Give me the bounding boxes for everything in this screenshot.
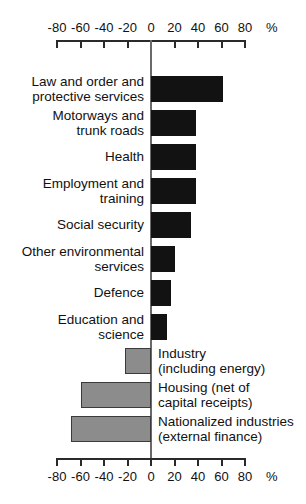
bar-chart: -80-60-40-20020406080 % Law and order an… [0,0,306,504]
bar-category-label: Housing (net of capital receipts) [158,380,306,411]
axis-tick [150,458,152,466]
bar-category-label: Health [0,149,144,165]
axis-tick [197,458,199,466]
bar-category-label: Defence [0,285,144,301]
bar [71,416,151,442]
bar-category-label: Social security [0,217,144,233]
bar-category-label: Employment and training [0,176,144,207]
bar [81,382,152,408]
bottom-axis-unit-label: % [266,470,278,484]
bar-category-label: Nationalized industries (external financ… [158,414,306,445]
bar [151,76,223,102]
axis-tick [127,458,129,466]
axis-tick [80,458,82,466]
bar-category-label: Industry (including energy) [158,346,306,377]
plot-area: Law and order and protective servicesMot… [0,0,306,504]
axis-tick-label: 80 [228,470,262,484]
bar-category-label: Other environmental services [0,244,144,275]
bottom-axis: -80-60-40-20020406080 % [0,458,306,492]
bar [151,314,167,340]
axis-tick [221,458,223,466]
bar [151,144,196,170]
bar [151,246,175,272]
axis-tick [56,458,58,466]
bar [151,212,191,238]
axis-tick [244,458,246,466]
bar [151,110,196,136]
axis-tick [174,458,176,466]
bar [151,280,171,306]
bar [151,178,196,204]
axis-tick [103,458,105,466]
bar-category-label: Law and order and protective services [0,74,144,105]
bar [125,348,151,374]
bar-category-label: Education and science [0,312,144,343]
bar-category-label: Motorways and trunk roads [0,108,144,139]
